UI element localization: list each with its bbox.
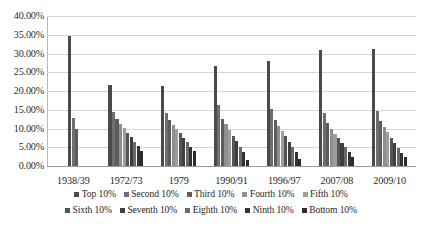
legend-item[interactable]: Third 10%: [187, 189, 235, 199]
chart-container: 0.00%5.00%10.00%15.00%20.00%25.00%30.00%…: [0, 0, 422, 237]
bar-group: [152, 16, 205, 166]
bar-groups: [47, 16, 416, 166]
y-tick-label: 20.00%: [14, 86, 44, 96]
y-tick-label: 10.00%: [14, 124, 44, 134]
y-tick-label: 35.00%: [14, 30, 44, 40]
bar: [404, 157, 407, 166]
y-tick-label: 30.00%: [14, 49, 44, 59]
legend-swatch-icon: [124, 192, 129, 197]
legend-item[interactable]: Fourth 10%: [242, 189, 294, 199]
legend-swatch-icon: [120, 208, 125, 213]
legend-row: Sixth 10%Seventh 10%Eighth 10%Ninth 10%B…: [0, 202, 422, 218]
bar: [193, 151, 196, 166]
legend-swatch-icon: [74, 192, 79, 197]
bar: [246, 160, 249, 166]
legend-swatch-icon: [187, 192, 192, 197]
legend-item[interactable]: Bottom 10%: [302, 205, 357, 215]
legend-item[interactable]: Ninth 10%: [245, 205, 293, 215]
y-tick-label: 25.00%: [14, 67, 44, 77]
y-tick-label: 15.00%: [14, 105, 44, 115]
legend-label: Eighth 10%: [193, 205, 238, 215]
y-tick-label: 0.00%: [19, 161, 44, 171]
legend-item[interactable]: Eighth 10%: [185, 205, 237, 215]
legend-item[interactable]: Seventh 10%: [120, 205, 177, 215]
y-axis-labels: 0.00%5.00%10.00%15.00%20.00%25.00%30.00%…: [0, 6, 46, 166]
legend-label: Sixth 10%: [73, 205, 112, 215]
legend-swatch-icon: [302, 208, 307, 213]
legend-label: Third 10%: [194, 189, 234, 199]
legend-label: Seventh 10%: [127, 205, 177, 215]
y-tick-label: 40.00%: [14, 11, 44, 21]
chart-legend: Top 10%Second 10%Third 10%Fourth 10%Fift…: [0, 186, 422, 218]
legend-item[interactable]: Top 10%: [74, 189, 116, 199]
legend-swatch-icon: [185, 208, 190, 213]
bar-group: [311, 16, 364, 166]
legend-swatch-icon: [303, 192, 308, 197]
bar-group: [47, 16, 100, 166]
bar-group: [100, 16, 153, 166]
bar: [351, 157, 354, 166]
bar: [298, 159, 301, 166]
legend-swatch-icon: [242, 192, 247, 197]
legend-label: Fifth 10%: [310, 189, 348, 199]
bar-group: [205, 16, 258, 166]
bar: [140, 151, 143, 166]
plot-wrapper: 0.00%5.00%10.00%15.00%20.00%25.00%30.00%…: [0, 6, 422, 184]
bar: [75, 129, 78, 167]
legend-item[interactable]: Second 10%: [124, 189, 179, 199]
y-tick-label: 5.00%: [19, 142, 44, 152]
legend-row: Top 10%Second 10%Third 10%Fourth 10%Fift…: [0, 186, 422, 202]
legend-label: Fourth 10%: [250, 189, 295, 199]
bar-group: [363, 16, 416, 166]
x-axis-line: [47, 166, 416, 167]
plot-area: [47, 16, 416, 166]
legend-label: Top 10%: [82, 189, 116, 199]
legend-swatch-icon: [245, 208, 250, 213]
legend-label: Bottom 10%: [309, 205, 357, 215]
legend-label: Second 10%: [131, 189, 178, 199]
legend-label: Ninth 10%: [253, 205, 294, 215]
legend-swatch-icon: [65, 208, 70, 213]
legend-item[interactable]: Sixth 10%: [65, 205, 112, 215]
bar-group: [258, 16, 311, 166]
legend-item[interactable]: Fifth 10%: [303, 189, 348, 199]
